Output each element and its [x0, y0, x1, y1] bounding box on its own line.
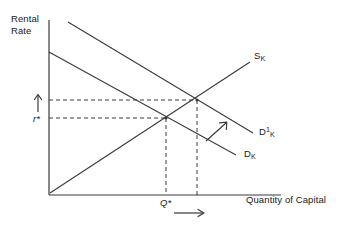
- equilibrium-point-new: [196, 99, 199, 102]
- supply-curve-label: SK: [254, 50, 265, 64]
- economics-diagram: Rental Rate Quantity of Capital SK D1K D…: [0, 0, 345, 229]
- supply-curve-label-subscript: K: [260, 54, 265, 63]
- equilibrium-point-initial: [165, 117, 168, 120]
- x-axis-label: Quantity of Capital: [246, 194, 326, 205]
- demand-shifted-label-subscript: K: [270, 130, 275, 139]
- demand-curve-label-base: D: [244, 148, 251, 159]
- supply-curve-sk: [50, 62, 250, 193]
- demand-curve-label-subscript: K: [251, 152, 256, 161]
- equilibrium-quantity-label: Q*: [160, 197, 171, 208]
- demand-shifted-label-base: D: [259, 126, 266, 137]
- y-axis-label-line2: Rate: [11, 25, 39, 37]
- quantity-increase-arrow-icon: [174, 210, 204, 217]
- y-axis-label-line1: Rental: [11, 13, 39, 25]
- y-axis-label: Rental Rate: [11, 13, 39, 36]
- rate-increase-arrow-icon: [35, 95, 42, 113]
- equilibrium-price-label: r*: [33, 113, 40, 124]
- demand-shifted-curve-label: D1K: [259, 124, 275, 140]
- demand-shift-arrow-icon: [206, 122, 227, 141]
- demand-curve-label: DK: [244, 148, 256, 162]
